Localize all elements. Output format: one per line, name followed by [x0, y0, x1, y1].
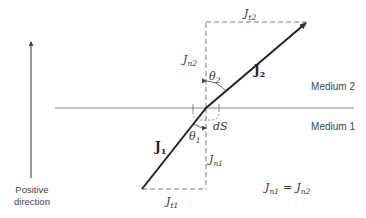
jt2-label: Jt2 [242, 7, 256, 22]
j1-vector [142, 108, 206, 189]
boundary-condition-diagram: Positive direction Medium 2 Medium 1 dS … [0, 0, 366, 218]
medium-1-label: Medium 1 [311, 121, 355, 132]
j1-label: J1 [154, 140, 166, 156]
jt1-label: Jt1 [164, 195, 178, 210]
theta1-arc [194, 124, 206, 128]
positive-direction-label-line1: Positive [15, 184, 48, 195]
theta1-label: θ1 [189, 130, 200, 145]
jn2-label: Jn2 [181, 53, 197, 68]
j2-label: J2 [253, 63, 265, 79]
positive-direction-label-line2: direction [14, 196, 50, 207]
theta2-label: θ2 [209, 70, 221, 85]
boundary-equation: Jn1=Jn2 [263, 181, 311, 196]
ds-label: dS [213, 120, 228, 133]
jn1-label: Jn1 [207, 153, 223, 168]
medium-2-label: Medium 2 [311, 81, 355, 92]
